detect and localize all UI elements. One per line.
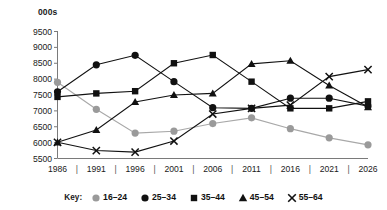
data-series-lines xyxy=(58,55,369,152)
x-axis-tick-label: 2016 xyxy=(281,164,300,174)
data-point-25–34-1996 xyxy=(132,52,139,59)
circle-marker-icon xyxy=(91,193,100,202)
x-axis-tick-label: 1986 xyxy=(48,164,67,174)
data-point-35–44-1996 xyxy=(132,88,138,94)
x-axis-separator: | xyxy=(270,164,272,174)
cross-marker-icon xyxy=(287,193,296,202)
data-point-45–54-1991 xyxy=(92,126,100,133)
x-axis-tick-label: 2011 xyxy=(242,164,261,174)
y-axis-tick-label: 6000 xyxy=(33,138,52,148)
legend-items: 16–2425–3435–4445–5455–64 xyxy=(91,192,323,202)
x-axis-separator: | xyxy=(309,164,311,174)
square-marker-icon xyxy=(189,193,198,202)
x-axis-tick-labels: 198619911996200120062011201620212026 xyxy=(48,164,378,174)
legend-item-35–44[interactable]: 35–44 xyxy=(189,192,225,202)
data-point-45–54-2016 xyxy=(286,57,294,64)
legend-label: 45–54 xyxy=(250,192,274,202)
legend-label: 25–34 xyxy=(152,192,176,202)
data-point-16–24-2006 xyxy=(209,120,216,127)
y-axis-tick-label: 8000 xyxy=(33,74,52,84)
data-point-45–54-2021 xyxy=(325,81,333,88)
legend-item-45–54[interactable]: 45–54 xyxy=(238,192,274,202)
circle-marker-icon xyxy=(140,193,149,202)
x-axis-tick-label: 2001 xyxy=(164,164,183,174)
data-point-16–24-1986 xyxy=(54,79,61,86)
x-axis-tick-label: 1991 xyxy=(87,164,106,174)
x-axis-tick-label: 2026 xyxy=(358,164,377,174)
legend-label: 55–64 xyxy=(299,192,323,202)
data-point-45–54-2006 xyxy=(209,89,217,96)
data-point-16–24-2016 xyxy=(287,125,294,132)
data-point-25–34-2001 xyxy=(170,78,177,85)
x-axis-tick-label: 2021 xyxy=(320,164,339,174)
data-point-16–24-1996 xyxy=(132,130,139,137)
x-axis-separator: | xyxy=(76,164,78,174)
triangle-marker-icon xyxy=(238,193,247,202)
y-axis-tick-label: 8500 xyxy=(33,58,52,68)
line-chart-plot: 950090008500800075007000650060005500 198… xyxy=(0,0,387,186)
y-axis-tick-labels: 950090008500800075007000650060005500 xyxy=(33,27,52,164)
legend-item-16–24[interactable]: 16–24 xyxy=(91,192,127,202)
y-axis-tick-label: 7500 xyxy=(33,90,52,100)
data-point-16–24-2026 xyxy=(364,141,371,148)
legend-item-55–64[interactable]: 55–64 xyxy=(287,192,323,202)
legend-title: Key: xyxy=(64,193,82,202)
data-point-35–44-2001 xyxy=(171,60,177,66)
x-axis-separator: | xyxy=(153,164,155,174)
data-point-16–24-2021 xyxy=(326,134,333,141)
data-point-55–64-2001 xyxy=(170,137,177,144)
x-axis-tick-label: 2006 xyxy=(203,164,222,174)
x-axis-separator: | xyxy=(347,164,349,174)
data-point-25–34-2006 xyxy=(209,104,216,111)
x-axis-tick-label: 1996 xyxy=(126,164,145,174)
series-line-45–54 xyxy=(58,61,369,143)
data-series-markers xyxy=(54,52,373,156)
data-point-25–34-2016 xyxy=(287,95,294,102)
data-point-25–34-2021 xyxy=(326,95,333,102)
x-axis-separator: | xyxy=(192,164,194,174)
y-axis-tick-label: 9000 xyxy=(33,42,52,52)
legend-item-25–34[interactable]: 25–34 xyxy=(140,192,176,202)
data-point-16–24-1991 xyxy=(93,106,100,113)
x-axis-separator: | xyxy=(115,164,117,174)
x-axis-separator: | xyxy=(231,164,233,174)
data-point-25–34-1991 xyxy=(93,61,100,68)
legend-label: 16–24 xyxy=(103,192,127,202)
data-point-35–44-2006 xyxy=(210,52,216,58)
data-point-35–44-1991 xyxy=(93,90,99,96)
data-point-35–44-2021 xyxy=(326,105,332,111)
data-point-35–44-1986 xyxy=(54,94,60,100)
y-axis-tick-label: 7000 xyxy=(33,106,52,116)
y-axis-tick-label: 6500 xyxy=(33,122,52,132)
chart-legend: Key: 16–2425–3435–4445–5455–64 xyxy=(0,186,387,208)
y-axis-tick-label: 9500 xyxy=(33,27,52,37)
data-point-16–24-2011 xyxy=(248,114,255,121)
data-point-16–24-2001 xyxy=(170,128,177,135)
chart-container: 000s 95009000850080007500700065006000550… xyxy=(0,0,387,210)
legend-label: 35–44 xyxy=(201,192,225,202)
data-point-35–44-2011 xyxy=(248,78,254,84)
y-axis-tick-label: 5500 xyxy=(33,154,52,164)
